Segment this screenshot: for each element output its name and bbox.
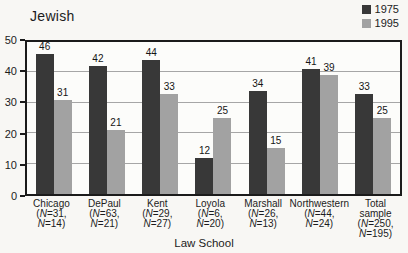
bar-value-label: 44 <box>146 47 157 58</box>
bar-value-label: 25 <box>217 105 228 116</box>
legend-item-1995: 1995 <box>362 17 399 29</box>
bar-1975-depaul: 42 <box>89 66 107 194</box>
bar-value-label: 12 <box>199 145 210 156</box>
y-tick-label-0: 0 <box>11 190 17 202</box>
bar-value-label: 42 <box>92 53 103 64</box>
y-axis: 01020304050 <box>0 40 25 196</box>
chart-title: Jewish <box>30 8 75 24</box>
plot-area: 4631422144331225341541393325 <box>25 40 402 196</box>
bar-value-label: 41 <box>305 56 316 67</box>
bar-1975-chicago: 46 <box>36 54 54 194</box>
bar-group-marshall: 3415 <box>240 42 293 194</box>
y-tick-label-50: 50 <box>5 34 17 46</box>
legend-swatch-1995 <box>362 19 371 28</box>
bar-value-label: 15 <box>270 135 281 146</box>
legend-item-1975: 1975 <box>362 3 399 15</box>
legend-label-1975: 1975 <box>375 3 399 15</box>
y-tick-label-10: 10 <box>5 159 17 171</box>
x-axis-labels: Chicago(N=31,N=14)DePaul(N=63,N=21)Kent(… <box>25 199 402 239</box>
bar-1995-loyola: 25 <box>213 118 231 194</box>
bar-value-label: 46 <box>39 41 50 52</box>
bar-value-label: 25 <box>377 105 388 116</box>
bar-1975-kent: 44 <box>142 60 160 194</box>
bar-value-label: 33 <box>164 81 175 92</box>
x-tick-label-loyola: Loyola(N=6,N=20) <box>184 199 237 239</box>
bar-group-northwestern: 4139 <box>293 42 346 194</box>
legend: 1975 1995 <box>362 3 399 29</box>
bar-1995-marshall: 15 <box>267 148 285 194</box>
bar-1975-northwestern: 41 <box>302 69 320 194</box>
figure: Jewish 1975 1995 01020304050 46314221443… <box>0 0 408 253</box>
x-tick-label-kent: Kent(N=29,N=27) <box>131 199 184 239</box>
y-tick-label-40: 40 <box>5 65 17 77</box>
y-tick-label-20: 20 <box>5 128 17 140</box>
bar-1995-total-sample: 25 <box>373 118 391 194</box>
bar-value-label: 31 <box>57 87 68 98</box>
x-tick-label-total-sample: Totalsample(N=250,N=195) <box>349 199 402 239</box>
bar-1975-marshall: 34 <box>249 91 267 194</box>
x-tick-label-chicago: Chicago(N=31,N=14) <box>25 199 78 239</box>
bar-groups: 4631422144331225341541393325 <box>27 42 400 194</box>
legend-swatch-1975 <box>362 5 371 14</box>
bar-value-label: 21 <box>110 117 121 128</box>
bar-group-loyola: 1225 <box>187 42 240 194</box>
x-axis-title: Law School <box>0 237 408 249</box>
bar-1995-chicago: 31 <box>54 100 72 194</box>
bar-group-chicago: 4631 <box>27 42 80 194</box>
x-tick-label-northwestern: Northwestern(N=44,N=24) <box>290 199 349 239</box>
bar-group-depaul: 4221 <box>80 42 133 194</box>
y-tick-label-30: 30 <box>5 96 17 108</box>
bar-group-total-sample: 3325 <box>347 42 400 194</box>
bar-value-label: 33 <box>359 81 370 92</box>
bar-1995-northwestern: 39 <box>320 75 338 194</box>
bar-group-kent: 4433 <box>134 42 187 194</box>
bar-value-label: 39 <box>323 62 334 73</box>
bar-1995-kent: 33 <box>160 94 178 194</box>
legend-label-1995: 1995 <box>375 17 399 29</box>
x-tick-label-depaul: DePaul(N=63,N=21) <box>78 199 131 239</box>
bar-1995-depaul: 21 <box>107 130 125 194</box>
bar-1975-loyola: 12 <box>195 158 213 194</box>
x-tick-label-marshall: Marshall(N=26,N=13) <box>237 199 290 239</box>
plot-inner: 4631422144331225341541393325 <box>27 42 400 194</box>
bar-value-label: 34 <box>252 78 263 89</box>
bar-1975-total-sample: 33 <box>355 94 373 194</box>
